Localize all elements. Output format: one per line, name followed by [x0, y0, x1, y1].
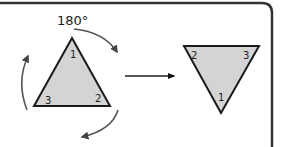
left-vertex-2: 2: [95, 93, 101, 104]
rotation-angle-label: 180°: [57, 13, 88, 28]
left-vertex-1: 1: [70, 49, 76, 60]
rotation-arrow-left: [22, 56, 28, 110]
right-vertex-3: 3: [243, 50, 249, 61]
left-vertex-3: 3: [45, 95, 51, 106]
right-vertex-2: 2: [191, 50, 197, 61]
rotation-arrow-top: [74, 29, 117, 52]
rotation-diagram: 180° 1 2 3 2 3 1: [0, 0, 283, 147]
rotation-arrow-bottom: [82, 110, 118, 137]
right-vertex-1: 1: [218, 92, 224, 103]
